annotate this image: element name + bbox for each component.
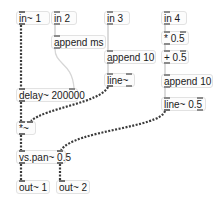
object-append10-a[interactable]: append 10 xyxy=(104,50,156,64)
object-label: vs.pan~ 0.5 xyxy=(19,152,71,163)
inlet[interactable] xyxy=(164,11,170,13)
object-label: append 10 xyxy=(107,52,154,63)
outlet[interactable] xyxy=(54,23,60,25)
outlet[interactable] xyxy=(19,162,25,164)
outlet[interactable] xyxy=(107,85,113,87)
inlet[interactable] xyxy=(54,35,60,37)
inlet[interactable] xyxy=(27,121,33,123)
inlet[interactable] xyxy=(19,11,25,13)
outlet[interactable] xyxy=(107,62,113,64)
inlet[interactable] xyxy=(107,11,113,13)
object-vspan[interactable]: vs.pan~ 0.5 xyxy=(16,150,66,164)
outlet[interactable] xyxy=(107,23,113,25)
object-mult[interactable]: *~ xyxy=(16,121,36,135)
inlet[interactable] xyxy=(164,50,170,52)
outlet[interactable] xyxy=(164,86,170,88)
object-out2[interactable]: out~ 2 xyxy=(56,180,90,194)
outlet[interactable] xyxy=(19,100,25,102)
inlet[interactable] xyxy=(197,97,203,99)
outlet[interactable] xyxy=(54,47,60,49)
inlet[interactable] xyxy=(19,180,25,182)
object-label: out~ 1 xyxy=(19,182,47,193)
inlet[interactable] xyxy=(107,73,113,75)
outlet[interactable] xyxy=(126,85,132,87)
patcher-canvas[interactable]: in~ 1 in 2 in 3 in 4 append ms * 0.5 app… xyxy=(0,0,215,205)
object-label: append 10 xyxy=(164,76,211,87)
inlet[interactable] xyxy=(69,88,75,90)
object-out1[interactable]: out~ 1 xyxy=(16,180,50,194)
outlet[interactable] xyxy=(164,109,170,111)
object-times-half[interactable]: * 0.5 xyxy=(161,31,189,45)
object-delay[interactable]: delay~ 200000 xyxy=(16,88,78,102)
inlet[interactable] xyxy=(19,150,25,152)
object-line-a[interactable]: line~ xyxy=(104,73,135,87)
inlet[interactable] xyxy=(59,180,65,182)
object-plus-half[interactable]: + 0.5 xyxy=(161,50,189,64)
inlet[interactable] xyxy=(164,74,170,76)
object-label: out~ 2 xyxy=(59,182,87,193)
object-label: delay~ 200000 xyxy=(19,90,85,101)
object-label: append ms xyxy=(54,37,103,48)
inlet[interactable] xyxy=(180,50,186,52)
inlet[interactable] xyxy=(164,97,170,99)
outlet[interactable] xyxy=(197,109,203,111)
inlet[interactable] xyxy=(180,31,186,33)
inlet[interactable] xyxy=(19,88,25,90)
outlet[interactable] xyxy=(164,62,170,64)
object-append-ms[interactable]: append ms xyxy=(51,35,106,49)
object-append10-b[interactable]: append 10 xyxy=(161,74,213,88)
object-in4[interactable]: in 4 xyxy=(161,11,187,25)
object-in1[interactable]: in~ 1 xyxy=(16,11,50,25)
cord-append-ms-delay[interactable] xyxy=(55,49,74,88)
outlet[interactable] xyxy=(164,43,170,45)
inlet[interactable] xyxy=(57,150,63,152)
object-line-b[interactable]: line~ 0.5 xyxy=(161,97,206,111)
inlet[interactable] xyxy=(126,73,132,75)
cord-line-b-vspan[interactable] xyxy=(61,111,165,150)
object-in3[interactable]: in 3 xyxy=(104,11,130,25)
outlet[interactable] xyxy=(19,133,25,135)
outlet[interactable] xyxy=(164,23,170,25)
inlet[interactable] xyxy=(54,11,60,13)
inlet[interactable] xyxy=(19,121,25,123)
inlet[interactable] xyxy=(164,31,170,33)
inlet[interactable] xyxy=(107,50,113,52)
outlet[interactable] xyxy=(57,162,63,164)
object-in2[interactable]: in 2 xyxy=(51,11,77,25)
outlet[interactable] xyxy=(19,23,25,25)
